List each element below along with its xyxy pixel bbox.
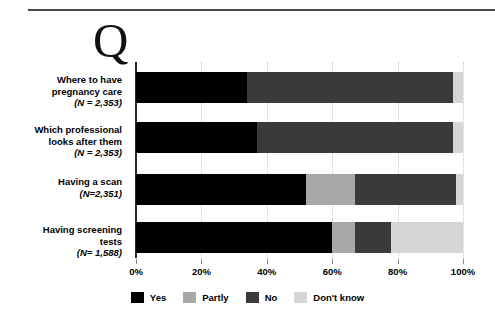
bar-segment-no (247, 72, 453, 103)
bar-segment-no (355, 174, 456, 205)
header-divider (28, 9, 495, 11)
bar-3 (136, 174, 463, 205)
gridline-100 (463, 62, 464, 258)
stacked-bar-chart: Where to havepregnancy care(N = 2,353)Wh… (0, 62, 495, 267)
x-tick-label-40: 40% (257, 266, 276, 277)
bar-label-3: Having a scan(N=2,351) (0, 176, 122, 199)
bar-label-line2: pregnancy care (0, 86, 122, 98)
bar-1 (136, 72, 463, 103)
legend-swatch-icon (246, 292, 259, 303)
bar-label-line1: Where to have (0, 74, 122, 86)
x-axis: 0%20%40%60%80%100% (0, 266, 495, 282)
bar-label-line1: Which professional (0, 124, 122, 136)
legend-label: Partly (202, 292, 228, 303)
bar-label-line2: tests (0, 236, 122, 248)
bar-segment-no (355, 222, 391, 253)
legend-item-yes[interactable]: Yes (131, 292, 166, 303)
bar-segment-partly (306, 174, 355, 205)
legend-label: No (265, 292, 278, 303)
bar-label-1: Where to havepregnancy care(N = 2,353) (0, 74, 122, 109)
bar-segment-yes (136, 72, 247, 103)
x-tick-label-0: 0% (129, 266, 143, 277)
bar-segment-yes (136, 174, 306, 205)
bar-segment-don-t-know (453, 72, 463, 103)
x-tick-mark-40 (267, 259, 268, 264)
bar-2 (136, 122, 463, 153)
bar-label-line1: Having screening (0, 224, 122, 236)
bar-segment-no (257, 122, 453, 153)
x-tick-mark-80 (398, 259, 399, 264)
bar-segment-yes (136, 222, 332, 253)
bar-label-n: (N= 1,588) (0, 247, 122, 259)
legend-swatch-icon (131, 292, 144, 303)
legend-swatch-icon (294, 292, 307, 303)
bar-4 (136, 222, 463, 253)
legend-item-no[interactable]: No (246, 292, 278, 303)
legend-label: Don't know (313, 292, 364, 303)
bar-label-n: (N=2,351) (0, 188, 122, 200)
bar-label-line1: Having a scan (0, 176, 122, 188)
bar-segment-partly (332, 222, 355, 253)
bar-segment-don-t-know (453, 122, 463, 153)
bar-label-n: (N = 2,353) (0, 97, 122, 109)
bar-segment-don-t-know (456, 174, 463, 205)
legend-swatch-icon (183, 292, 196, 303)
bar-label-line2: looks after them (0, 136, 122, 148)
bar-segment-don-t-know (391, 222, 463, 253)
bar-label-4: Having screeningtests(N= 1,588) (0, 224, 122, 259)
x-tick-label-20: 20% (192, 266, 211, 277)
x-tick-label-60: 60% (323, 266, 342, 277)
legend-item-partly[interactable]: Partly (183, 292, 228, 303)
legend-label: Yes (150, 292, 166, 303)
q-logo: Q (93, 16, 128, 65)
x-tick-label-100: 100% (451, 266, 475, 277)
bar-label-2: Which professionallooks after them(N = 2… (0, 124, 122, 159)
x-tick-mark-60 (332, 259, 333, 264)
x-tick-mark-100 (463, 259, 464, 264)
chart-page: Q Where to havepregnancy care(N = 2,353)… (0, 0, 495, 330)
bar-segment-yes (136, 122, 257, 153)
legend-item-don-t-know[interactable]: Don't know (294, 292, 364, 303)
x-tick-mark-20 (201, 259, 202, 264)
x-tick-mark-0 (136, 259, 137, 264)
bar-label-n: (N = 2,353) (0, 147, 122, 159)
chart-legend: YesPartlyNoDon't know (0, 292, 495, 303)
x-tick-label-80: 80% (388, 266, 407, 277)
